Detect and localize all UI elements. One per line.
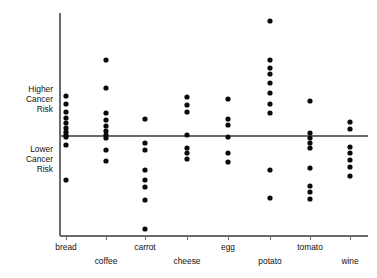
data-point <box>307 183 312 188</box>
cancer-risk-scatter-chart: breadcoffeecarrotcheeseeggpotatotomatowi… <box>0 0 377 278</box>
series-coffee <box>103 57 108 163</box>
data-point <box>267 195 272 200</box>
data-point <box>267 110 272 115</box>
data-point <box>347 144 352 149</box>
data-point <box>103 110 108 115</box>
plot-area: breadcoffeecarrotcheeseeggpotatotomatowi… <box>0 0 377 278</box>
y-annotation-lower: LowerCancerRisk <box>26 144 54 174</box>
data-point <box>225 134 230 139</box>
y-annotation-line: Lower <box>30 144 53 154</box>
data-point <box>184 156 189 161</box>
data-point <box>347 164 352 169</box>
category-label-wine: wine <box>340 256 359 266</box>
data-point <box>184 94 189 99</box>
data-point <box>225 96 230 101</box>
data-point <box>103 123 108 128</box>
data-point <box>103 135 108 140</box>
data-point <box>184 150 189 155</box>
data-point <box>267 65 272 70</box>
data-points-group <box>63 18 352 231</box>
data-point <box>63 109 68 114</box>
data-point <box>184 132 189 137</box>
data-point <box>184 145 189 150</box>
y-annotation-higher: HigherCancerRisk <box>26 84 54 114</box>
data-point <box>142 197 147 202</box>
data-point <box>63 115 68 120</box>
category-label-coffee: coffee <box>95 256 118 266</box>
data-point <box>63 177 68 182</box>
data-point <box>142 140 147 145</box>
data-point <box>307 189 312 194</box>
data-point <box>267 71 272 76</box>
data-point <box>63 142 68 147</box>
data-point <box>307 196 312 201</box>
data-point <box>103 158 108 163</box>
data-point <box>103 57 108 62</box>
series-wine <box>347 119 352 178</box>
data-point <box>63 93 68 98</box>
y-annotation-line: Cancer <box>26 154 53 164</box>
data-point <box>63 101 68 106</box>
category-label-carrot: carrot <box>134 242 156 252</box>
data-point <box>225 159 230 164</box>
data-point <box>142 167 147 172</box>
data-point <box>307 145 312 150</box>
category-label-cheese: cheese <box>173 256 200 266</box>
data-point <box>225 122 230 127</box>
series-cheese <box>184 94 189 161</box>
data-point <box>347 173 352 178</box>
category-label-egg: egg <box>221 242 235 252</box>
data-point <box>347 157 352 162</box>
series-egg <box>225 96 230 164</box>
category-label-potato: potato <box>258 256 282 266</box>
data-point <box>347 150 352 155</box>
data-point <box>267 90 272 95</box>
category-labels-group: breadcoffeecarrotcheeseeggpotatotomatowi… <box>55 242 359 266</box>
data-point <box>103 85 108 90</box>
data-point <box>307 165 312 170</box>
y-axis-annotations-group: HigherCancerRiskLowerCancerRisk <box>26 84 54 174</box>
series-carrot <box>142 116 147 231</box>
data-point <box>267 101 272 106</box>
data-point <box>184 102 189 107</box>
data-point <box>63 134 68 139</box>
y-annotation-line: Cancer <box>26 94 53 104</box>
x-axis-ticks <box>66 236 350 240</box>
series-bread <box>63 93 68 182</box>
data-point <box>142 177 147 182</box>
data-point <box>267 80 272 85</box>
data-point <box>184 109 189 114</box>
data-point <box>225 150 230 155</box>
y-annotation-line: Risk <box>37 164 54 174</box>
data-point <box>142 226 147 231</box>
data-point <box>307 130 312 135</box>
data-point <box>225 116 230 121</box>
data-point <box>307 98 312 103</box>
y-annotation-line: Risk <box>37 104 54 114</box>
data-point <box>267 167 272 172</box>
series-tomato <box>307 98 312 201</box>
series-potato <box>267 18 272 200</box>
data-point <box>347 119 352 124</box>
data-point <box>347 126 352 131</box>
data-point <box>142 184 147 189</box>
data-point <box>307 135 312 140</box>
data-point <box>142 147 147 152</box>
data-point <box>307 140 312 145</box>
y-annotation-line: Higher <box>28 84 53 94</box>
data-point <box>63 120 68 125</box>
data-point <box>142 116 147 121</box>
category-label-tomato: tomato <box>297 242 323 252</box>
data-point <box>103 117 108 122</box>
data-point <box>103 147 108 152</box>
category-label-bread: bread <box>55 242 77 252</box>
data-point <box>267 57 272 62</box>
data-point <box>267 18 272 23</box>
